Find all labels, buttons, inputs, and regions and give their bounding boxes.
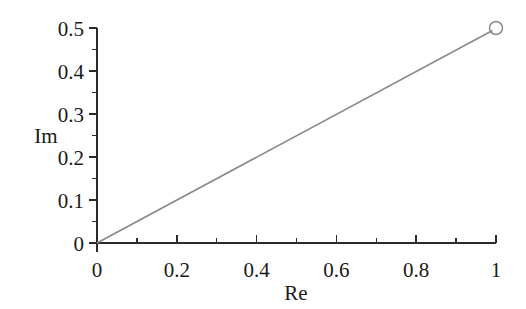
y-tick-label-0.1: 0.1 bbox=[58, 189, 84, 213]
y-tick-label-0.3: 0.3 bbox=[58, 103, 84, 127]
x-tick-label-1: 1 bbox=[491, 258, 502, 282]
x-tick-label-0.4: 0.4 bbox=[243, 258, 270, 282]
x-tick-label-0.8: 0.8 bbox=[403, 258, 429, 282]
y-axis-title: Im bbox=[34, 124, 57, 148]
chart-screenshot: 0.5 0.4 0.3 0.2 0.1 0 0 0.2 0.4 0.6 0.8 … bbox=[0, 0, 526, 309]
x-tick-label-0.2: 0.2 bbox=[164, 258, 190, 282]
y-tick-label-0.4: 0.4 bbox=[58, 60, 85, 84]
endpoint-open-circle-marker bbox=[490, 22, 503, 35]
x-axis-title: Re bbox=[284, 281, 307, 305]
y-tick-label-0.2: 0.2 bbox=[58, 146, 84, 170]
x-tick-label-0: 0 bbox=[92, 258, 103, 282]
y-tick-label-0: 0 bbox=[74, 232, 85, 256]
x-tick-label-0.6: 0.6 bbox=[323, 258, 349, 282]
complex-plane-plot: 0.5 0.4 0.3 0.2 0.1 0 0 0.2 0.4 0.6 0.8 … bbox=[0, 0, 526, 309]
data-series-trajectory bbox=[97, 31, 493, 244]
y-tick-label-0.5: 0.5 bbox=[58, 17, 84, 41]
